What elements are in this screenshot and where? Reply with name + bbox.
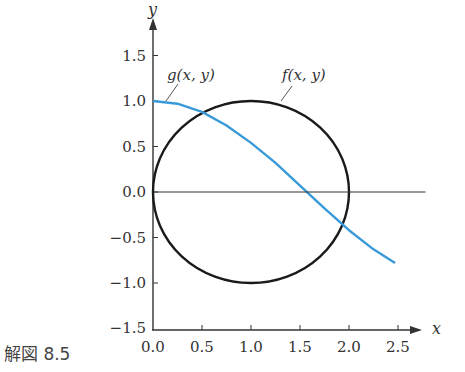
- chart: 0.00.51.01.52.02.5−1.5−1.0−0.50.00.51.01…: [0, 0, 465, 372]
- x-tick-label: 1.5: [288, 338, 312, 356]
- y-tick-label: 0.0: [122, 183, 146, 201]
- g-label: g(x, y): [167, 66, 215, 84]
- x-axis-label: x: [432, 319, 441, 338]
- y-tick-label: 1.5: [122, 47, 146, 65]
- y-tick-label: 0.5: [122, 138, 146, 156]
- x-tick-label: 0.0: [141, 338, 165, 356]
- f-label: f(x, y): [281, 66, 326, 84]
- y-axis-label: y: [147, 0, 158, 19]
- x-axis-arrow-icon: [410, 326, 422, 334]
- x-tick-label: 1.0: [239, 338, 263, 356]
- ticks: 0.00.51.01.52.02.5−1.5−1.0−0.50.00.51.01…: [110, 0, 441, 356]
- y-tick-label: −0.5: [110, 229, 146, 247]
- y-tick-label: −1.5: [110, 319, 146, 337]
- x-tick-label: 0.5: [190, 338, 214, 356]
- y-tick-label: 1.0: [122, 92, 146, 110]
- g-curve: [153, 101, 395, 263]
- x-tick-label: 2.5: [386, 338, 410, 356]
- figure-caption: 解図 8.5: [4, 340, 70, 365]
- labels: g(x, y)f(x, y): [166, 66, 326, 101]
- series: [153, 101, 425, 283]
- y-tick-label: −1.0: [110, 274, 146, 292]
- y-axis-arrow-icon: [149, 18, 157, 30]
- x-tick-label: 2.0: [337, 338, 361, 356]
